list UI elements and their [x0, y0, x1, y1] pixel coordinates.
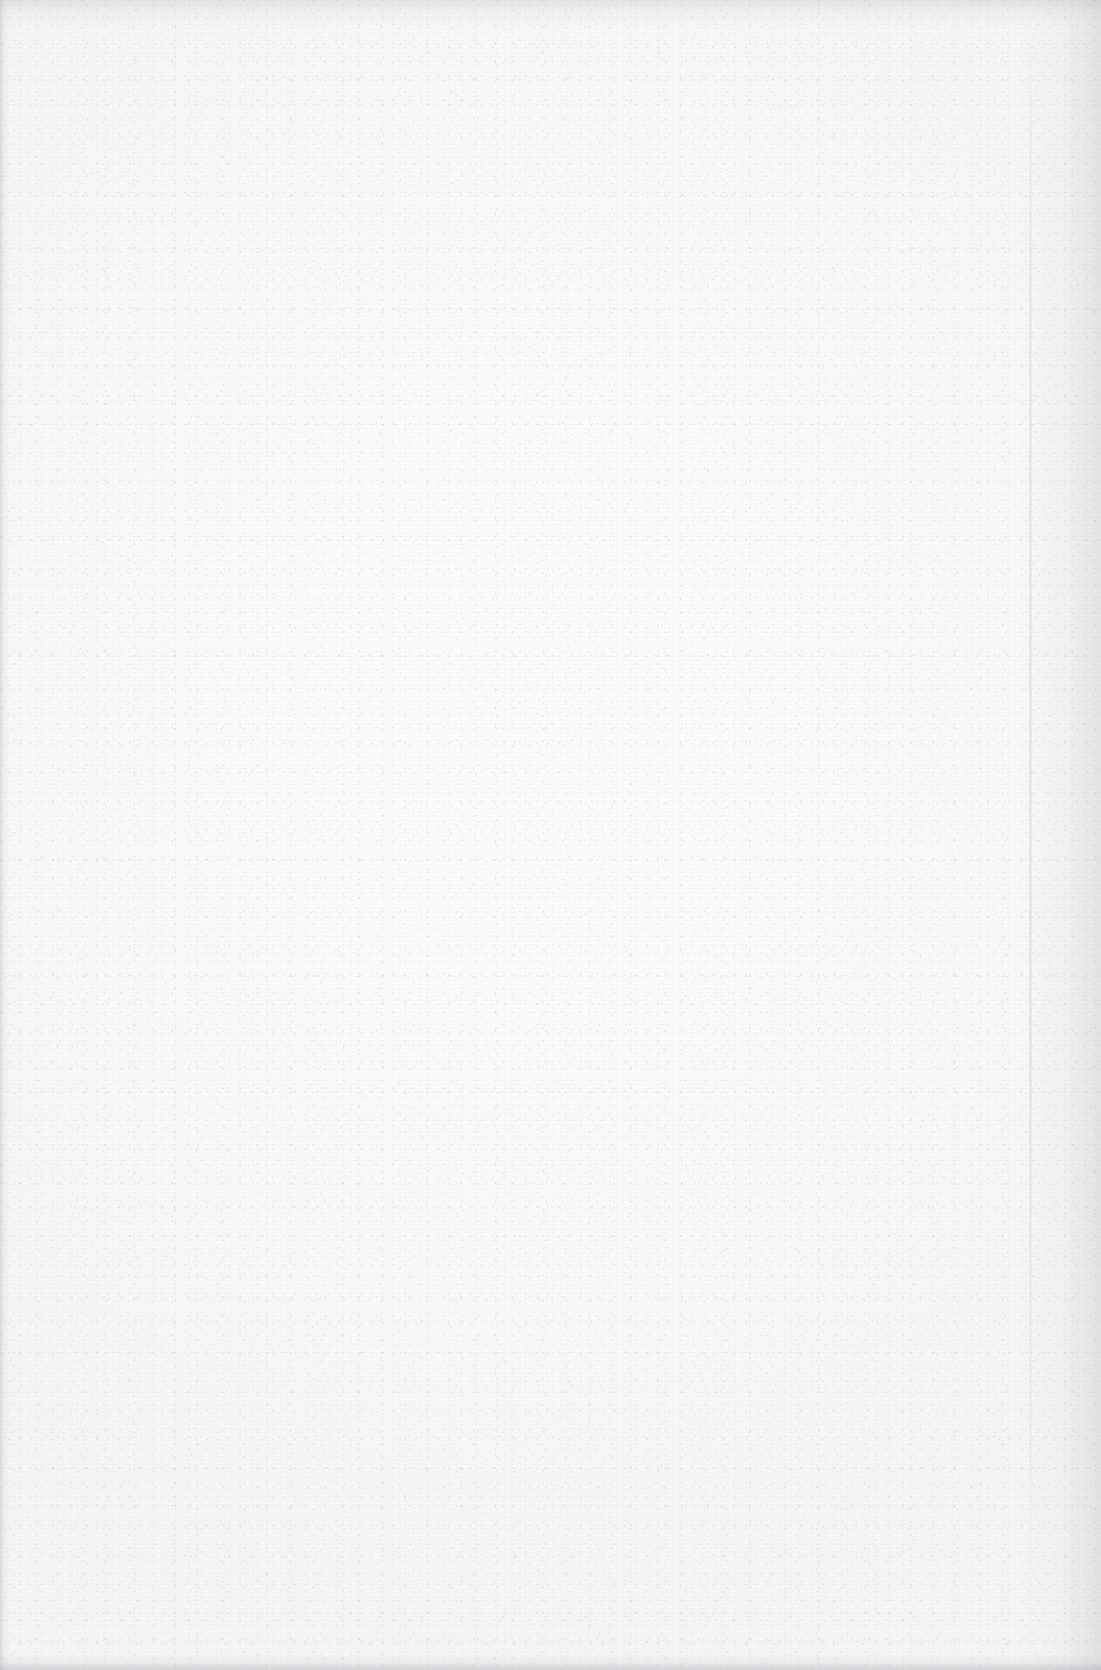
scanned-page	[0, 0, 1101, 1670]
page-content-area	[0, 0, 1101, 1670]
